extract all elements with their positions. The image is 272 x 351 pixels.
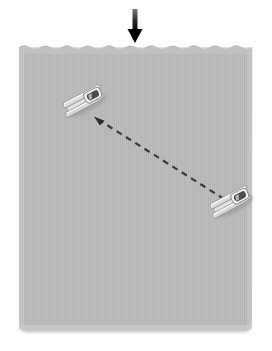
water-right-edge-fade xyxy=(247,52,252,330)
arrow-head-icon xyxy=(128,29,143,43)
water-left-edge-fade xyxy=(19,52,24,330)
diagram-canvas xyxy=(0,0,272,351)
water-surface-group xyxy=(19,45,252,333)
downward-arrow xyxy=(128,9,143,43)
water-surface-body xyxy=(19,45,252,331)
water-surface-highlight xyxy=(19,47,252,54)
diagram-svg xyxy=(0,0,272,351)
water-bottom-edge-fade xyxy=(22,325,249,331)
